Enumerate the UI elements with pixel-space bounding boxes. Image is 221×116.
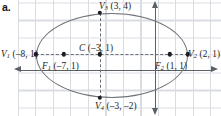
ellipse-figure: V1 (–8, 1) V2 (2, 1) V3 (3, 4) V4 (–3, –… [0,0,221,116]
label-v4-subscript: 4 [101,104,104,111]
label-f2: F2 (1, 1) [155,62,187,71]
part-letter: a. [2,1,11,13]
label-f1: F1 (–7, 1) [42,62,79,71]
label-c-coords: (–3, 1) [88,43,114,53]
label-f2-coords: (1, 1) [167,61,188,71]
label-v1-subscript: 1 [7,52,10,59]
label-v2-coords: (2, 1) [200,49,221,59]
label-f1-coords: (–7, 1) [54,61,80,71]
label-f1-subscript: 1 [48,64,51,71]
label-center: C (–3, 1) [79,44,113,53]
x-axis-left-arrow-icon [14,66,21,72]
label-v1-coords: (–8, 1) [13,49,39,59]
x-axis-right-arrow-icon [211,66,218,72]
label-v3-coords: (3, 4) [111,1,132,11]
label-v1: V1 (–8, 1) [1,50,38,59]
label-v4-coords: (–3, –2) [107,101,137,111]
label-v2: V2 (2, 1) [188,50,220,59]
label-c-letter: C [79,43,85,53]
label-v2-subscript: 2 [194,52,197,59]
y-axis-up-arrow-icon [152,1,158,8]
label-v4: V4 (–3, –2) [95,102,137,111]
ellipse-curve [36,13,188,98]
label-v3-subscript: 3 [105,4,108,11]
y-axis-down-arrow-icon [152,108,158,115]
label-f2-subscript: 2 [161,64,164,71]
label-v3: V3 (3, 4) [99,2,131,11]
